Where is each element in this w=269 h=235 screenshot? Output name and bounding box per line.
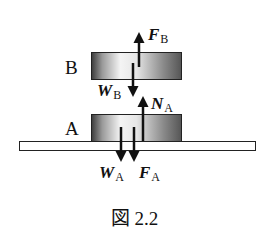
force-symbol: N <box>151 94 163 113</box>
force-n-a-label: NA <box>151 95 173 114</box>
block-b <box>92 53 182 80</box>
force-w-b-label: WB <box>97 82 121 101</box>
force-subscript: A <box>115 170 124 184</box>
force-symbol: W <box>99 163 114 182</box>
force-subscript: A <box>151 170 160 184</box>
force-f-a-label: FA <box>139 164 160 183</box>
force-subscript: A <box>164 101 173 115</box>
force-subscript: B <box>113 88 121 102</box>
block-a <box>92 115 182 142</box>
force-w-a-label: WA <box>99 164 124 183</box>
figure-caption: 図 2.2 <box>0 203 269 230</box>
force-symbol: W <box>97 81 112 100</box>
block-a-label: A <box>65 119 79 138</box>
force-symbol: F <box>139 163 150 182</box>
force-diagram <box>0 0 269 235</box>
force-subscript: B <box>160 32 168 46</box>
force-symbol: F <box>148 25 159 44</box>
block-b-label: B <box>65 58 78 77</box>
force-f-b-label: FB <box>148 26 168 45</box>
table-surface <box>20 142 256 151</box>
